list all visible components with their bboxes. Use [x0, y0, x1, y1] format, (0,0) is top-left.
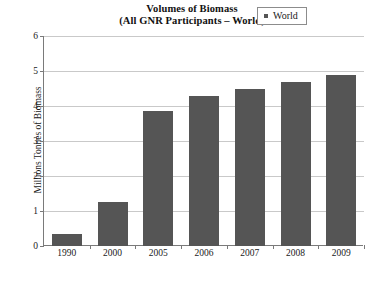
bar-chart-figure: Volumes of Biomass (All GNR Participants… [0, 0, 384, 284]
bars [44, 36, 364, 246]
bar [98, 202, 128, 246]
y-axis-tick-label: 1 [33, 206, 38, 216]
legend-marker-icon [264, 14, 268, 18]
bar-slot [318, 36, 364, 246]
x-axis-tick-label: 1990 [44, 248, 90, 258]
bar [143, 111, 173, 246]
y-axis-tick-mark [40, 246, 44, 247]
y-axis-tick-label: 2 [33, 171, 38, 181]
bar-slot [227, 36, 273, 246]
y-axis-tick-label: 5 [33, 66, 38, 76]
legend-label-world: World [273, 10, 298, 21]
x-axis-tick-label: 2000 [90, 248, 136, 258]
bar [52, 234, 82, 246]
y-axis-tick-label: 6 [33, 31, 38, 41]
bar [281, 82, 311, 247]
x-axis-tick-label: 2007 [227, 248, 273, 258]
chart-title-line-2: (All GNR Participants – World) [0, 15, 384, 27]
y-axis-tick-label: 0 [33, 241, 38, 251]
bar-slot [181, 36, 227, 246]
x-axis-tick-label: 2008 [273, 248, 319, 258]
bar-slot [273, 36, 319, 246]
bar [189, 96, 219, 247]
y-axis-tick-label: 4 [33, 101, 38, 111]
bar-slot [90, 36, 136, 246]
x-axis-tick-mark [364, 245, 365, 249]
bar-slot [44, 36, 90, 246]
chart-legend: World [257, 7, 307, 25]
y-axis-tick-label: 3 [33, 136, 38, 146]
bar [235, 89, 265, 247]
bar [326, 75, 356, 247]
x-axis-tick-label: 2009 [318, 248, 364, 258]
x-axis-tick-label: 2005 [135, 248, 181, 258]
bar-slot [135, 36, 181, 246]
x-axis-tick-label: 2006 [181, 248, 227, 258]
chart-title-line-1: Volumes of Biomass [0, 3, 384, 15]
plot-area: 0123456 1990200020052006200720082009 [43, 36, 363, 246]
chart-title: Volumes of Biomass (All GNR Participants… [0, 3, 384, 27]
